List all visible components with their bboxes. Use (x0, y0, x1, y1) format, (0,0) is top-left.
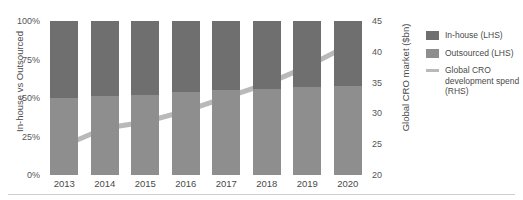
left-axis-tick: 0% (27, 170, 40, 180)
bar-segment-inhouse (131, 21, 159, 95)
x-axis-tick: 2019 (287, 178, 327, 189)
bar-group (91, 21, 119, 175)
left-axis-tick: 75% (22, 55, 40, 65)
right-axis-tick: 35 (372, 78, 382, 88)
bar-group (131, 21, 159, 175)
bar-segment-outsourced (131, 95, 159, 175)
legend-item-label: Global CRO development spend (RHS) (445, 65, 521, 97)
bar-segment-inhouse (50, 21, 78, 98)
bar-segment-outsourced (50, 98, 78, 175)
legend-item[interactable]: Outsourced (LHS) (426, 48, 521, 59)
bar-segment-outsourced (293, 87, 321, 175)
bar-segment-inhouse (334, 21, 362, 86)
right-axis-tick: 45 (372, 16, 382, 26)
legend-item-label: Outsourced (LHS) (445, 48, 514, 59)
right-axis-tick: 25 (372, 139, 382, 149)
left-axis-tick: 50% (22, 93, 40, 103)
x-axis-tick: 2014 (85, 178, 125, 189)
legend-item-label: In-house (LHS) (445, 30, 503, 41)
x-axis-tick: 2013 (44, 178, 84, 189)
left-axis-tick: 25% (22, 132, 40, 142)
bar-segment-inhouse (172, 21, 200, 92)
right-axis-tick: 20 (372, 170, 382, 180)
bar-segment-inhouse (91, 21, 119, 96)
footer-divider (8, 194, 515, 195)
right-axis-tick: 40 (372, 47, 382, 57)
bar-group (334, 21, 362, 175)
x-axis-tick: 2016 (166, 178, 206, 189)
line-swatch-icon (426, 69, 439, 72)
bar-group (50, 21, 78, 175)
x-axis-labels: 20132014201520162017201820192020 (44, 178, 368, 192)
bar-group (253, 21, 281, 175)
bar-segment-outsourced (334, 86, 362, 175)
x-axis-tick: 2020 (328, 178, 368, 189)
bar-segment-outsourced (253, 89, 281, 175)
x-axis-tick: 2018 (247, 178, 287, 189)
bar-segment-outsourced (91, 96, 119, 175)
bar-segment-outsourced (172, 92, 200, 175)
right-axis-tick: 30 (372, 108, 382, 118)
bar-segment-inhouse (293, 21, 321, 87)
bar-segment-inhouse (212, 21, 240, 90)
left-axis-title: In-house vs Outsourced (14, 7, 25, 157)
bar-group (172, 21, 200, 175)
legend-item[interactable]: In-house (LHS) (426, 30, 521, 41)
square-swatch-dark-icon (426, 31, 439, 40)
chart-legend: In-house (LHS)Outsourced (LHS)Global CRO… (426, 30, 521, 104)
square-swatch-mid-icon (426, 49, 439, 58)
plot-area (44, 21, 368, 175)
right-axis-ticks: 202530354045 (372, 21, 396, 175)
bar-group (212, 21, 240, 175)
chart-figure: 0%25%50%75%100% In-house vs Outsourced 2… (0, 0, 523, 200)
right-axis-title: Global CRO market ($bn) (400, 3, 411, 153)
bar-segment-outsourced (212, 90, 240, 175)
bar-group (293, 21, 321, 175)
bar-segment-inhouse (253, 21, 281, 89)
legend-item[interactable]: Global CRO development spend (RHS) (426, 65, 521, 97)
x-axis-tick: 2017 (206, 178, 246, 189)
x-axis-tick: 2015 (125, 178, 165, 189)
